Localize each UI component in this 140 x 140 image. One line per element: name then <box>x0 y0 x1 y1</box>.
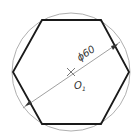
center-label: O1 <box>74 80 86 92</box>
diameter-dimension-line <box>23 42 120 108</box>
diagram-canvas: ϕ60 O1 <box>0 0 140 140</box>
hexagon-diagram: ϕ60 O1 <box>0 0 140 140</box>
center-mark-icon <box>67 68 75 76</box>
